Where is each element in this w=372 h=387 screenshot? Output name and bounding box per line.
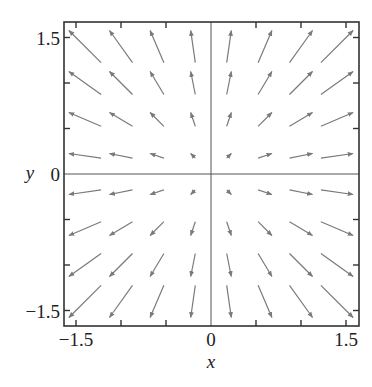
vector-arrow bbox=[191, 285, 196, 317]
vector-arrow bbox=[290, 72, 313, 95]
vector-arrow bbox=[227, 285, 232, 317]
vector-arrow bbox=[69, 222, 101, 236]
vector-arrow bbox=[290, 190, 313, 195]
vector-arrow bbox=[258, 31, 272, 63]
vector-arrow bbox=[150, 154, 164, 159]
x-axis-label: x bbox=[206, 351, 216, 372]
vector-arrow bbox=[227, 254, 232, 277]
vector-arrow bbox=[321, 113, 353, 127]
x-tick-label: −1.5 bbox=[59, 329, 93, 350]
vector-arrow bbox=[321, 222, 353, 236]
vector-arrow bbox=[258, 285, 272, 317]
vector-arrow bbox=[321, 190, 353, 195]
vector-arrow bbox=[290, 113, 313, 127]
x-tick-label: 1.5 bbox=[334, 329, 358, 350]
vector-arrow bbox=[258, 72, 272, 95]
vector-arrow bbox=[110, 222, 133, 236]
vector-arrow bbox=[321, 154, 353, 159]
vector-arrow bbox=[191, 72, 196, 95]
vector-arrow bbox=[69, 254, 101, 277]
vector-arrow bbox=[321, 254, 353, 277]
vector-arrow bbox=[191, 154, 196, 159]
y-tick-label: 0 bbox=[51, 164, 61, 185]
y-tick-label: 1.5 bbox=[36, 28, 60, 49]
x-tick-label: 0 bbox=[206, 329, 216, 350]
vector-arrow bbox=[110, 254, 133, 277]
vector-arrow bbox=[191, 254, 196, 277]
vector-arrow bbox=[258, 190, 272, 195]
vector-arrow bbox=[290, 222, 313, 236]
vector-arrow bbox=[150, 222, 164, 236]
vector-arrow bbox=[110, 285, 133, 317]
vector-field-plot: −1.501.51.50−1.5 x y bbox=[0, 0, 372, 387]
vector-arrow bbox=[150, 72, 164, 95]
vector-arrow bbox=[69, 113, 101, 127]
vector-arrow bbox=[290, 31, 313, 63]
vector-arrow bbox=[258, 113, 272, 127]
vector-arrow bbox=[150, 31, 164, 63]
vector-arrow bbox=[110, 154, 133, 159]
vector-arrow bbox=[69, 190, 101, 195]
vector-arrow bbox=[290, 254, 313, 277]
vector-arrow bbox=[110, 31, 133, 63]
y-tick-label: −1.5 bbox=[26, 301, 60, 322]
vector-arrow bbox=[227, 154, 232, 159]
vector-arrow bbox=[321, 31, 353, 63]
vector-arrow bbox=[110, 72, 133, 95]
vector-arrow bbox=[258, 154, 272, 159]
vector-arrow bbox=[110, 190, 133, 195]
vector-arrow bbox=[69, 72, 101, 95]
zero-lines bbox=[64, 22, 359, 326]
vector-arrow bbox=[191, 113, 196, 127]
vector-arrow bbox=[227, 190, 232, 195]
vector-arrow bbox=[290, 285, 313, 317]
vector-arrow bbox=[258, 254, 272, 277]
vector-arrow bbox=[227, 72, 232, 95]
vector-arrow bbox=[191, 190, 196, 195]
vector-arrow bbox=[227, 31, 232, 63]
vector-arrow bbox=[69, 31, 101, 63]
vector-arrow bbox=[150, 113, 164, 127]
vector-arrow bbox=[290, 154, 313, 159]
vector-arrow bbox=[227, 113, 232, 127]
vector-arrow bbox=[69, 154, 101, 159]
vector-arrow bbox=[191, 31, 196, 63]
vector-arrow bbox=[110, 113, 133, 127]
vector-arrow bbox=[227, 222, 232, 236]
vector-arrow bbox=[258, 222, 272, 236]
vector-arrow bbox=[321, 72, 353, 95]
vector-arrow bbox=[150, 190, 164, 195]
vector-arrow bbox=[321, 285, 353, 317]
vector-arrow bbox=[69, 285, 101, 317]
vector-arrow bbox=[150, 254, 164, 277]
vector-arrow bbox=[150, 285, 164, 317]
vector-arrow bbox=[191, 222, 196, 236]
y-axis-label: y bbox=[24, 162, 35, 183]
